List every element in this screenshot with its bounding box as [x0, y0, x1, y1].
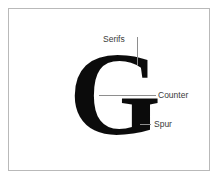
annotation-label-spur: Spur [154, 119, 172, 129]
leader-line-counter [99, 95, 156, 96]
annotation-label-counter: Counter [158, 90, 188, 100]
annotation-label-serifs: Serifs [103, 34, 125, 44]
diagram-frame: G Serifs Counter Spur [8, 8, 210, 171]
leader-line-serifs [137, 37, 138, 66]
diagram-screenshot: G Serifs Counter Spur [0, 0, 218, 179]
leader-line-spur [140, 124, 151, 125]
